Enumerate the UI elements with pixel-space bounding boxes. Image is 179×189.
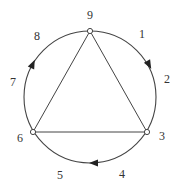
node-9 bbox=[87, 28, 92, 33]
label-7: 7 bbox=[10, 76, 16, 88]
label-1: 1 bbox=[139, 28, 145, 40]
label-9: 9 bbox=[87, 9, 93, 21]
arrow-bottom-icon bbox=[89, 160, 98, 167]
label-2: 2 bbox=[164, 73, 170, 85]
edge-9-3 bbox=[90, 31, 147, 132]
label-8: 8 bbox=[34, 30, 40, 42]
outer-circle bbox=[24, 31, 156, 163]
label-6: 6 bbox=[17, 132, 23, 144]
edge-6-9 bbox=[33, 31, 90, 132]
arrow-left-icon bbox=[28, 58, 38, 69]
diagram-canvas bbox=[0, 0, 179, 189]
label-5: 5 bbox=[57, 169, 63, 181]
node-3 bbox=[144, 129, 149, 134]
label-3: 3 bbox=[159, 130, 165, 142]
cycle-diagram: 9 1 2 3 4 5 6 7 8 bbox=[0, 0, 179, 189]
node-6 bbox=[30, 129, 35, 134]
label-4: 4 bbox=[119, 168, 125, 180]
